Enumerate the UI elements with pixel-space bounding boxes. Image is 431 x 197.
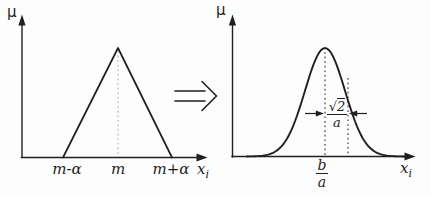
left-x-axis-label-subscript: i [205, 168, 209, 181]
tick-label-m: m [106, 161, 130, 178]
radicand: 2 [337, 98, 345, 114]
left-y-axis-label: μ [7, 4, 17, 21]
right-x-axis-label-subscript: i [408, 167, 412, 180]
width-measure-left-arrowhead [316, 111, 324, 117]
implies-arrow-icon [175, 82, 217, 111]
left-x-axis-label: xi [197, 161, 209, 183]
right-x-axis-label: xi [400, 160, 412, 182]
width-annotation-fraction: √2 a [324, 100, 350, 130]
tick-label-m-minus-alpha: m-α [45, 161, 89, 178]
right-plot-axes [232, 22, 407, 157]
right-y-axis-arrowhead [229, 15, 236, 26]
peak-fraction-numerator: b [316, 158, 329, 174]
peak-position-fraction: b a [310, 158, 334, 190]
left-plot-axes [21, 22, 199, 158]
membership-function-diagram: μ μ m-α m m+α xi xi b a √2 a [0, 0, 431, 197]
tick-label-m-plus-alpha: m+α [148, 161, 194, 178]
right-y-axis-label: μ [216, 2, 226, 19]
radical-sign: √ [329, 99, 337, 114]
left-y-axis-arrowhead [18, 15, 25, 26]
peak-fraction-denominator: a [318, 174, 326, 190]
width-fraction-numerator: √2 [327, 100, 348, 115]
width-fraction-denominator: a [333, 115, 341, 130]
